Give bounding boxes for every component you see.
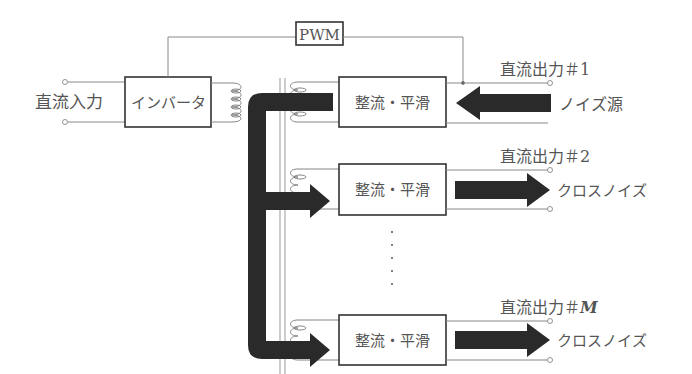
dc-input-label: 直流入力 — [35, 92, 103, 112]
rectifier-label-1: 整流・平滑 — [355, 94, 430, 112]
rectifier-label-m: 整流・平滑 — [355, 332, 430, 350]
cross-noise-arrow-2-icon — [455, 173, 550, 207]
inverter-label: インバータ — [131, 94, 206, 112]
output-m: 直流出力＃M クロスノイズ — [446, 298, 647, 363]
output-m-label: 直流出力＃M — [500, 298, 599, 317]
primary-coil-icon — [211, 83, 241, 122]
rectifier-block-m: 整流・平滑 — [339, 315, 446, 365]
cross-noise-label-m: クロスノイズ — [557, 332, 647, 350]
cross-noise-label-2: クロスノイズ — [557, 182, 647, 200]
output-2: 直流出力＃2 クロスノイズ — [446, 147, 647, 212]
rectifier-block-2: 整流・平滑 — [339, 164, 446, 215]
output-1: 直流出力＃1 ノイズ源 — [446, 60, 623, 123]
inverter-block: インバータ — [125, 77, 211, 127]
noise-source-arrow-icon — [456, 86, 551, 120]
ellipsis-dots — [391, 231, 393, 285]
rectifier-block-1: 整流・平滑 — [339, 77, 446, 127]
cross-noise-arrow-m-icon — [455, 323, 550, 357]
output-2-label: 直流出力＃2 — [500, 147, 590, 166]
transformer-core — [280, 78, 285, 374]
output-1-label: 直流出力＃1 — [500, 60, 590, 79]
converter-diagram: 直流入力 インバータ PWM — [0, 0, 692, 374]
noise-source-label: ノイズ源 — [559, 95, 623, 114]
pwm-block: PWM — [168, 22, 465, 85]
noise-propagation-arrow-icon — [248, 93, 333, 367]
rectifier-label-2: 整流・平滑 — [355, 181, 430, 199]
pwm-label: PWM — [299, 26, 340, 44]
